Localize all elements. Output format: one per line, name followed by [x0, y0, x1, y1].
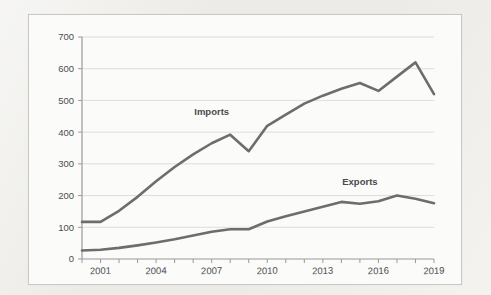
- chart-panel: [28, 14, 462, 285]
